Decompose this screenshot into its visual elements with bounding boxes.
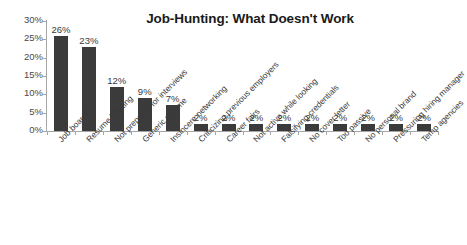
y-axis-tick-label: 25%	[24, 32, 43, 43]
y-axis-tick-label: 5%	[29, 106, 43, 117]
x-axis-tick-mark	[103, 131, 104, 135]
bar[interactable]	[54, 36, 68, 131]
y-axis-tick-label: 20%	[24, 51, 43, 62]
x-axis-tick-mark	[215, 131, 216, 135]
y-axis-tick-label: 15%	[24, 69, 43, 80]
bar-value-label: 9%	[138, 86, 152, 97]
x-axis-tick-mark	[75, 131, 76, 135]
x-axis-tick-mark	[438, 131, 439, 135]
bar-value-label: 12%	[107, 75, 126, 86]
y-axis-tick-label: 10%	[24, 87, 43, 98]
x-axis-tick-mark	[270, 131, 271, 135]
bar-value-label: 23%	[79, 35, 98, 46]
x-axis-tick-mark	[159, 131, 160, 135]
x-axis-tick-mark	[326, 131, 327, 135]
bar-slot: 26%	[47, 21, 75, 131]
x-axis-tick-mark	[354, 131, 355, 135]
x-axis-tick-mark	[298, 131, 299, 135]
x-axis-tick-mark	[187, 131, 188, 135]
x-axis-tick-mark	[47, 131, 48, 135]
bar-value-label: 26%	[51, 24, 70, 35]
y-axis-tick-label: 0%	[29, 124, 43, 135]
x-axis-tick-mark	[243, 131, 244, 135]
x-axis-tick-mark	[410, 131, 411, 135]
x-axis-tick-mark	[131, 131, 132, 135]
x-axis-tick-mark	[382, 131, 383, 135]
y-axis-tick-label: 30%	[24, 14, 43, 25]
